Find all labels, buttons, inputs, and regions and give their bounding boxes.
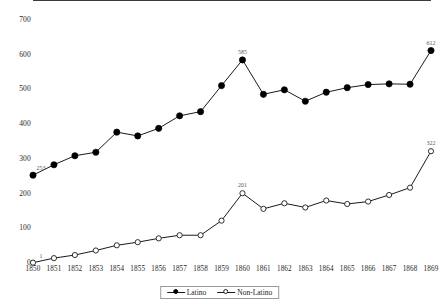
data-point <box>135 133 141 139</box>
data-point <box>261 206 266 211</box>
x-axis-tick-label: 1853 <box>88 265 103 274</box>
series-line <box>33 51 431 176</box>
data-point <box>177 113 183 119</box>
data-point <box>428 149 433 154</box>
data-point <box>156 125 162 131</box>
legend-item-label: Non-Latino <box>237 288 272 297</box>
x-axis-tick-label: 1864 <box>319 265 334 274</box>
filled-circle-icon <box>167 288 185 296</box>
data-point <box>51 256 56 261</box>
data-point <box>428 47 434 53</box>
series-line <box>33 151 431 262</box>
data-point-label: 201 <box>238 182 247 188</box>
data-point <box>114 129 120 135</box>
data-point <box>30 172 36 178</box>
data-point <box>93 149 99 155</box>
data-point <box>72 252 77 257</box>
x-axis-tick-label: 1859 <box>214 265 229 274</box>
data-point <box>302 98 308 104</box>
data-point <box>51 162 57 168</box>
data-point <box>239 57 245 63</box>
data-point <box>197 109 203 115</box>
data-point <box>407 185 412 190</box>
data-point <box>114 243 119 248</box>
data-point <box>219 218 224 223</box>
x-axis-tick-label: 1851 <box>47 265 62 274</box>
data-point-label: 253 <box>37 165 46 171</box>
data-point-label: 1 <box>40 253 43 259</box>
data-point-label: 585 <box>238 49 247 55</box>
data-point-label: 612 <box>427 40 436 46</box>
data-point <box>344 85 350 91</box>
x-axis-tick-label: 1867 <box>382 265 397 274</box>
line-chart: 0100200300400500600700 18501851185218531… <box>0 0 439 308</box>
x-axis-tick-label: 1858 <box>193 265 208 274</box>
x-axis-tick-label: 1855 <box>130 265 145 274</box>
legend-item-latino[interactable]: Latino <box>167 288 207 297</box>
data-point <box>156 236 161 241</box>
data-point <box>365 81 371 87</box>
x-axis-tick-label: 1865 <box>340 265 355 274</box>
x-axis-tick-label: 1861 <box>256 265 271 274</box>
x-axis-tick-label: 1860 <box>235 265 250 274</box>
data-point <box>282 201 287 206</box>
data-point <box>240 191 245 196</box>
open-circle-icon <box>217 288 235 296</box>
data-point <box>93 248 98 253</box>
x-axis-tick-label: 1850 <box>26 265 41 274</box>
data-point <box>177 233 182 238</box>
x-axis-tick-label: 1852 <box>68 265 83 274</box>
data-point <box>218 83 224 89</box>
chart-legend: LatinoNon-Latino <box>160 286 280 299</box>
x-axis-tick-label: 1857 <box>172 265 187 274</box>
data-point <box>281 87 287 93</box>
x-axis-tick-label: 1854 <box>109 265 124 274</box>
data-point <box>198 233 203 238</box>
series-layer <box>0 0 439 308</box>
data-point <box>387 192 392 197</box>
series-latino <box>30 47 434 178</box>
legend-item-label: Latino <box>187 288 207 297</box>
x-axis-tick-label: 1863 <box>298 265 313 274</box>
legend-item-non-latino[interactable]: Non-Latino <box>217 288 272 297</box>
data-point <box>323 89 329 95</box>
data-point <box>345 201 350 206</box>
data-point <box>135 240 140 245</box>
data-point <box>386 81 392 87</box>
data-point-label: 322 <box>427 140 436 146</box>
series-non-latino <box>30 149 433 266</box>
x-axis-tick-label: 1862 <box>277 265 292 274</box>
x-axis-tick-label: 1868 <box>403 265 418 274</box>
x-axis-tick-label: 1866 <box>361 265 376 274</box>
data-point <box>72 153 78 159</box>
x-axis-tick-label: 1869 <box>424 265 439 274</box>
data-point <box>407 81 413 87</box>
data-point <box>303 205 308 210</box>
x-axis-tick-label: 1856 <box>151 265 166 274</box>
data-point <box>366 199 371 204</box>
data-point <box>260 91 266 97</box>
data-point <box>324 198 329 203</box>
x-axis: 1850185118521853185418551856185718581859… <box>33 265 431 279</box>
